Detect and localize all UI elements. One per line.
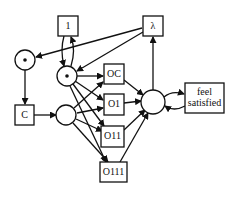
transition-OC: OC — [104, 64, 124, 84]
transition-lambda: λ — [143, 16, 163, 36]
transition-label: λ — [151, 20, 156, 31]
transition-O1: O1 — [104, 94, 124, 115]
transition-label: 1 — [66, 20, 71, 31]
place-bottom — [56, 105, 76, 125]
transition-O111: O111 — [100, 162, 127, 182]
transition-label: O1 — [108, 98, 120, 109]
place-mid — [57, 66, 77, 86]
place-right — [141, 90, 165, 114]
transition-C: C — [15, 105, 34, 125]
transition-feel-satisfied: feel satisfied — [185, 83, 224, 113]
petri-net-diagram: 1 λ C OC O1 O11 O111 feel satisfied — [0, 0, 243, 205]
place-left — [15, 50, 35, 70]
transition-label: O11 — [104, 130, 121, 141]
transition-O11: O11 — [101, 126, 124, 147]
transition-label: feel — [197, 86, 212, 97]
transition-1: 1 — [58, 16, 78, 36]
token-icon — [65, 74, 69, 78]
transition-label: O111 — [103, 166, 124, 177]
token-icon — [23, 58, 27, 62]
transition-label: satisfied — [188, 97, 221, 108]
transition-label: OC — [107, 68, 121, 79]
transition-label: C — [21, 109, 28, 120]
